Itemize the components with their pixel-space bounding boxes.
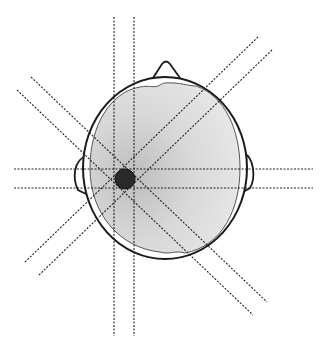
brain-region — [90, 83, 240, 253]
nose — [153, 62, 180, 79]
head-diagram — [0, 0, 326, 344]
target-lesion — [115, 169, 135, 189]
